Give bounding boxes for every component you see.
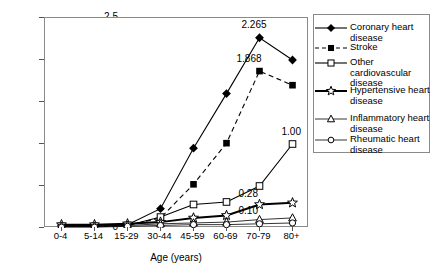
marker-open-circle: [124, 223, 130, 228]
y-tick-mark: [39, 227, 44, 228]
marker-star: [288, 198, 298, 207]
legend-label: Rheumatic heart disease: [348, 134, 431, 155]
data-point-label: 2.265: [242, 20, 267, 30]
marker-open-square: [223, 199, 230, 206]
legend-item[interactable]: Inflammatory heart disease: [314, 113, 431, 134]
marker-open-circle: [223, 222, 229, 228]
marker-open-square: [289, 141, 296, 148]
marker-filled-square: [328, 45, 334, 51]
x-tick-mark: [259, 227, 260, 231]
marker-filled-diamond: [327, 24, 335, 32]
marker-open-square: [328, 60, 334, 66]
legend-item[interactable]: Hypertensive heart disease: [314, 85, 431, 106]
marker-open-circle: [91, 224, 97, 228]
legend-marker-sample: [314, 113, 348, 125]
plot-series-canvas: [45, 18, 309, 228]
marker-open-circle: [190, 222, 196, 228]
legend-label: Coronary heart disease: [348, 22, 431, 43]
marker-filled-square: [256, 68, 263, 75]
marker-open-circle: [256, 221, 262, 227]
plot-area: [44, 17, 308, 227]
legend-label: Hypertensive heart disease: [348, 85, 431, 106]
legend-item[interactable]: Stroke: [314, 42, 431, 54]
chart-figure: Population (million) 00.51.01.52.02.5 0-…: [0, 0, 432, 271]
marker-open-square: [190, 201, 197, 208]
marker-filled-square: [289, 82, 296, 89]
marker-filled-diamond: [222, 89, 231, 98]
legend-label: Inflammatory heart disease: [348, 113, 431, 134]
marker-filled-diamond: [255, 33, 264, 42]
legend-marker-sample: [314, 57, 348, 69]
data-point-label: 1.868: [237, 54, 262, 64]
marker-filled-diamond: [288, 56, 297, 65]
legend-item[interactable]: Coronary heart disease: [314, 22, 431, 43]
marker-open-circle: [289, 220, 295, 226]
marker-filled-square: [223, 140, 230, 147]
legend-marker-sample: [314, 134, 348, 146]
marker-star: [326, 86, 335, 95]
data-point-label: 0.28: [239, 189, 258, 199]
legend-marker-sample: [314, 85, 348, 97]
x-axis-title: Age (years): [44, 252, 308, 263]
marker-open-circle: [328, 137, 334, 143]
x-tick-mark: [160, 227, 161, 231]
x-tick-mark: [193, 227, 194, 231]
data-point-label: 0.10: [239, 206, 258, 216]
legend-marker-sample: [314, 22, 348, 34]
x-tick-mark: [226, 227, 227, 231]
legend-marker-sample: [314, 42, 348, 54]
data-point-label: 1.00: [282, 127, 301, 137]
x-tick-mark: [292, 227, 293, 231]
marker-open-circle: [58, 224, 64, 228]
marker-open-circle: [157, 222, 163, 228]
legend-item[interactable]: Rheumatic heart disease: [314, 134, 431, 155]
chart-legend: Coronary heart diseaseStrokeOther cardio…: [313, 14, 430, 153]
x-tick-mark: [94, 227, 95, 231]
marker-filled-square: [190, 181, 197, 188]
marker-open-triangle: [327, 115, 334, 122]
marker-filled-diamond: [189, 144, 198, 153]
legend-label: Stroke: [348, 42, 377, 53]
x-tick-label: 80+: [266, 231, 318, 241]
x-tick-mark: [127, 227, 128, 231]
x-tick-mark: [61, 227, 62, 231]
marker-filled-diamond: [156, 204, 165, 213]
